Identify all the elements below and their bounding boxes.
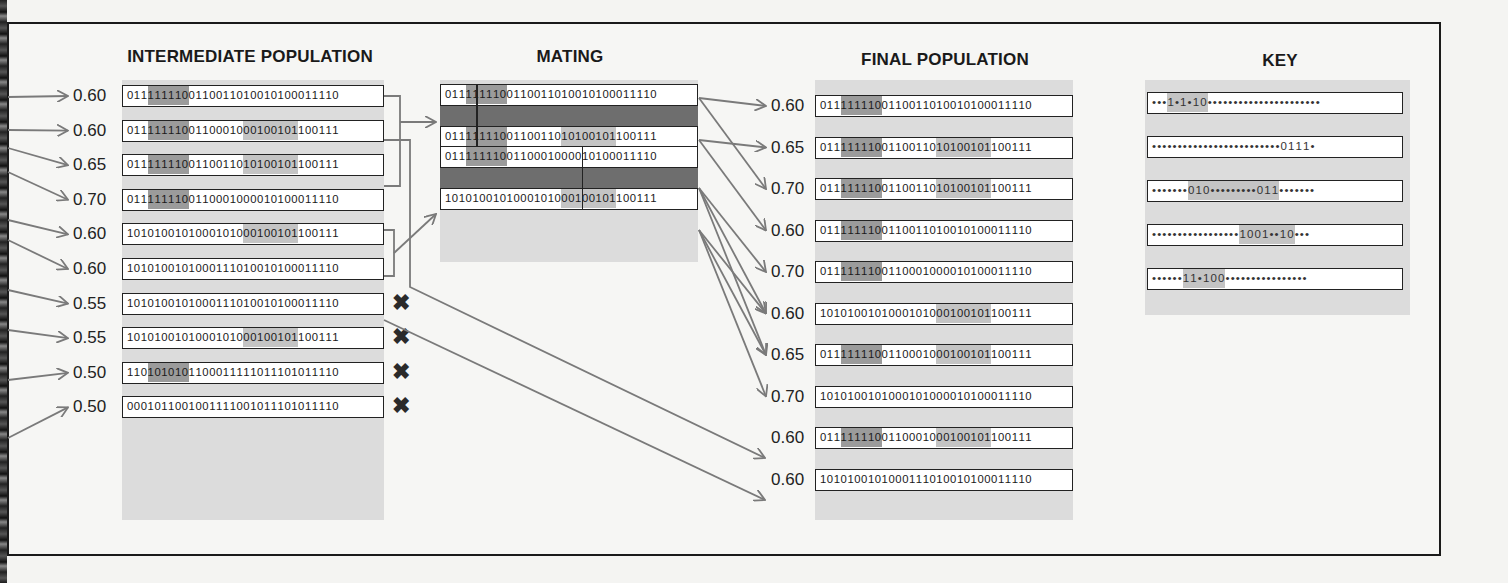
mating-parent-a: 0111111100110011010010100011110 — [440, 84, 698, 106]
mating-parent-b: 0111111100110011010100101100111 — [440, 126, 698, 148]
title-intermediate-population: INTERMEDIATE POPULATION — [95, 47, 405, 67]
crossover-point — [582, 146, 584, 210]
intermediate-chromosome: 0001011001001111001011101011110 — [122, 396, 384, 418]
crossover-point — [476, 84, 478, 148]
schema-pattern: •••••••••••••••••••••••••0111• — [1147, 136, 1403, 158]
intermediate-chromosome: 1010100101000101000100101100111 — [122, 223, 384, 245]
fitness-value: 0.70 — [771, 179, 804, 199]
fitness-value: 0.65 — [771, 138, 804, 158]
mating-pair-bar — [440, 168, 698, 188]
intermediate-chromosome: 0111111100110011010010100011110 — [122, 85, 384, 107]
fitness-value: 0.60 — [73, 259, 106, 279]
fitness-value: 0.70 — [73, 190, 106, 210]
intermediate-chromosome: 0111111100110001000010100011110 — [122, 189, 384, 211]
final-chromosome: 1010100101000101000100101100111 — [815, 303, 1073, 325]
final-chromosome: 1010100101000111010010100011110 — [815, 469, 1073, 491]
schema-pattern: •••••••••••••••••1001••10••• — [1147, 224, 1403, 246]
mating-pair-bar — [440, 106, 698, 126]
fitness-value: 0.70 — [771, 387, 804, 407]
final-chromosome: 0111111100110001000010100011110 — [815, 261, 1073, 283]
final-chromosome: 0111111100110011010010100011110 — [815, 95, 1073, 117]
schema-pattern: ••••••11•100•••••••••••••••• — [1147, 268, 1403, 290]
intermediate-chromosome: 0111111100110011010100101100111 — [122, 154, 384, 176]
culled-x-icon: ✖ — [392, 324, 410, 350]
fitness-value: 0.65 — [73, 155, 106, 175]
final-chromosome: 0111111100110011010100101100111 — [815, 178, 1073, 200]
culled-x-icon: ✖ — [392, 393, 410, 419]
final-chromosome: 0111111100110001000100101100111 — [815, 427, 1073, 449]
fitness-value: 0.55 — [73, 294, 106, 314]
final-chromosome: 1010100101000101000010100011110 — [815, 386, 1073, 408]
fitness-value: 0.70 — [771, 262, 804, 282]
fitness-value: 0.60 — [73, 121, 106, 141]
final-chromosome: 0111111100110011010010100011110 — [815, 220, 1073, 242]
fitness-value: 0.60 — [73, 86, 106, 106]
intermediate-chromosome: 1101010101100011111011101011110 — [122, 362, 384, 384]
schema-pattern: •••••••010•••••••••011••••••• — [1147, 180, 1403, 202]
mating-parent-a: 0111111100110001000010100011110 — [440, 146, 698, 168]
fitness-value: 0.60 — [771, 221, 804, 241]
fitness-value: 0.60 — [771, 96, 804, 116]
culled-x-icon: ✖ — [392, 359, 410, 385]
intermediate-chromosome: 1010100101000101000100101100111 — [122, 327, 384, 349]
final-chromosome: 0111111100110011010100101100111 — [815, 137, 1073, 159]
fitness-value: 0.50 — [73, 363, 106, 383]
title-key: KEY — [1240, 51, 1320, 71]
fitness-value: 0.50 — [73, 397, 106, 417]
schema-pattern: •••1•1•10•••••••••••••••••••••• — [1147, 92, 1403, 114]
intermediate-chromosome: 1010100101000111010010100011110 — [122, 258, 384, 280]
fitness-value: 0.60 — [771, 428, 804, 448]
image-edge-strip — [0, 0, 7, 583]
fitness-value: 0.55 — [73, 328, 106, 348]
fitness-value: 0.60 — [771, 304, 804, 324]
culled-x-icon: ✖ — [392, 290, 410, 316]
final-chromosome: 0111111100110001000100101100111 — [815, 344, 1073, 366]
mating-parent-b: 1010100101000101000100101100111 — [440, 188, 698, 210]
title-mating: MATING — [500, 47, 640, 67]
fitness-value: 0.65 — [771, 345, 804, 365]
fitness-value: 0.60 — [771, 470, 804, 490]
title-final-population: FINAL POPULATION — [825, 50, 1065, 70]
fitness-value: 0.60 — [73, 224, 106, 244]
intermediate-chromosome: 0111111100110001000100101100111 — [122, 120, 384, 142]
intermediate-chromosome: 1010100101000111010010100011110 — [122, 293, 384, 315]
